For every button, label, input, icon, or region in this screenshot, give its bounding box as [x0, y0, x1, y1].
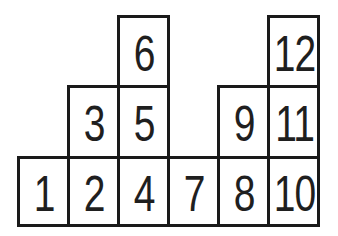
cell-number: 9 [234, 99, 255, 149]
grid-cell: 9 [217, 85, 270, 159]
grid-cell: 3 [67, 85, 120, 159]
cell-number: 3 [84, 99, 105, 149]
cell-number: 8 [234, 169, 255, 219]
cell-number: 11 [275, 99, 314, 149]
grid-cell: 4 [117, 156, 170, 227]
grid-cell: 7 [167, 156, 220, 227]
grid-cell: 8 [217, 156, 270, 227]
cell-number: 7 [184, 169, 205, 219]
cell-number: 10 [273, 169, 315, 219]
cell-number: 4 [134, 169, 155, 219]
grid-cell: 12 [267, 15, 320, 88]
grid-cell: 11 [267, 85, 320, 159]
grid-cell: 5 [117, 85, 170, 159]
cell-number: 6 [134, 29, 155, 79]
grid-cell: 6 [117, 15, 170, 88]
cell-number: 12 [273, 29, 315, 79]
grid-cell: 1 [17, 156, 70, 227]
cell-number: 5 [134, 99, 155, 149]
grid-cell: 10 [267, 156, 320, 227]
cell-number: 2 [84, 169, 105, 219]
cell-number: 1 [34, 169, 55, 219]
grid-cell: 2 [67, 156, 120, 227]
squares-staircase-diagram: 123456789101112 [0, 0, 338, 236]
